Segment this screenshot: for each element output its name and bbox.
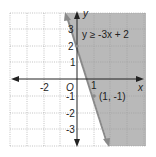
boundary-arrow-bottom-icon [103,138,110,147]
tick-label-y-1: 1 [70,57,76,68]
tick-label-y-neg2: -2 [66,108,75,119]
tick-label-x-1: 1 [91,80,97,91]
point-1-neg1 [92,94,96,98]
tick-label-x-neg2: -2 [40,82,49,93]
coordinate-plane: y x O -2 1 3 2 1 -1 -2 -3 y ≥ -3x + 2 (1… [0,0,156,157]
tick-label-y-neg1: -1 [66,91,75,102]
point-0-2 [75,44,78,47]
x-axis-label: x [137,82,144,93]
y-axis-label: y [82,8,89,19]
tick-label-y-3: 3 [68,24,74,35]
point-annotation: (1, -1) [99,91,126,102]
inequality-annotation: y ≥ -3x + 2 [82,29,129,40]
tick-label-y-2: 2 [68,41,74,52]
x-axis-left-arrow-icon [11,76,19,82]
tick-label-y-neg3: -3 [66,124,75,135]
